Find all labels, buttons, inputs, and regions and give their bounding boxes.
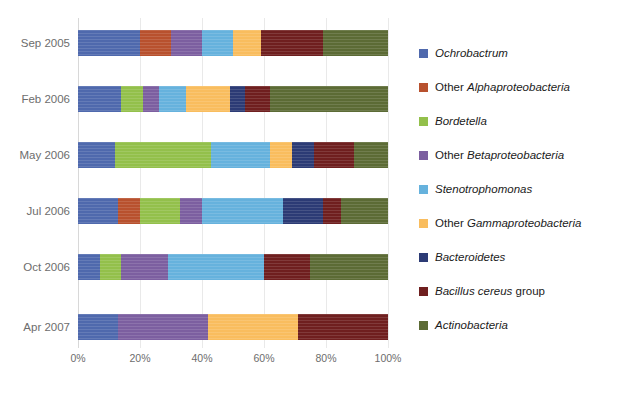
x-axis-tick-label: 100% (375, 352, 402, 364)
bar-segment[interactable] (118, 314, 208, 340)
gridline-60 (264, 18, 265, 348)
bar-segment[interactable] (341, 198, 388, 224)
y-axis-tick-label: Jul 2006 (0, 198, 70, 224)
bar-segment[interactable] (159, 86, 187, 112)
bar-segment[interactable] (292, 142, 314, 168)
bar-segment[interactable] (211, 142, 270, 168)
gridline-0 (78, 18, 79, 348)
bar-segment[interactable] (298, 314, 388, 340)
bar-segment[interactable] (168, 254, 264, 280)
x-axis-labels: 0%20%40%60%80%100% (78, 352, 388, 372)
legend-item[interactable]: Other Betaproteobacteria (419, 138, 614, 172)
bar-segment[interactable] (208, 314, 298, 340)
bar-segment[interactable] (78, 30, 140, 56)
bar-row[interactable] (78, 198, 388, 224)
stacked-bar-chart: Sep 2005Feb 2006May 2006Jul 2006Oct 2006… (0, 0, 618, 395)
bar-segment[interactable] (100, 254, 122, 280)
bar-segment[interactable] (270, 86, 388, 112)
bar-row[interactable] (78, 142, 388, 168)
legend-label: Bacteroidetes (435, 251, 505, 264)
legend-label: Other Alphaproteobacteria (435, 81, 570, 94)
legend-label: Bacillus cereus group (435, 285, 545, 298)
bar-segment[interactable] (78, 86, 121, 112)
legend-item[interactable]: Bacillus cereus group (419, 274, 614, 308)
legend-item[interactable]: Other Gammaproteobacteria (419, 206, 614, 240)
bar-segment[interactable] (78, 314, 118, 340)
bar-row[interactable] (78, 30, 388, 56)
legend-label: Bordetella (435, 115, 487, 128)
bar-segment[interactable] (314, 142, 354, 168)
legend-label: Ochrobactrum (435, 47, 508, 60)
legend-swatch-icon (419, 151, 428, 160)
bar-segment[interactable] (78, 198, 118, 224)
bar-segment[interactable] (78, 142, 115, 168)
bar-segment[interactable] (261, 30, 323, 56)
legend-swatch-icon (419, 49, 428, 58)
legend-swatch-icon (419, 321, 428, 330)
bar-segment[interactable] (115, 142, 211, 168)
x-axis-tick-label: 0% (70, 352, 85, 364)
bar-segment[interactable] (264, 254, 311, 280)
bar-segment[interactable] (121, 86, 143, 112)
y-axis-tick-label: Oct 2006 (0, 254, 70, 280)
bar-segment[interactable] (202, 198, 283, 224)
legend-item[interactable]: Bacteroidetes (419, 240, 614, 274)
bar-segment[interactable] (143, 86, 159, 112)
bar-segment[interactable] (233, 30, 261, 56)
chart-legend: OchrobactrumOther AlphaproteobacteriaBor… (419, 36, 614, 342)
gridline-100 (388, 18, 389, 348)
legend-swatch-icon (419, 219, 428, 228)
legend-label: Stenotrophomonas (435, 183, 532, 196)
bar-segment[interactable] (323, 30, 388, 56)
gridline-40 (202, 18, 203, 348)
legend-swatch-icon (419, 117, 428, 126)
bar-segment[interactable] (180, 198, 202, 224)
legend-swatch-icon (419, 253, 428, 262)
bar-segment[interactable] (78, 254, 100, 280)
legend-label: Actinobacteria (435, 319, 508, 332)
bar-row[interactable] (78, 314, 388, 340)
bar-segment[interactable] (118, 198, 140, 224)
bar-segment[interactable] (186, 86, 229, 112)
legend-swatch-icon (419, 83, 428, 92)
bar-segment[interactable] (270, 142, 292, 168)
legend-swatch-icon (419, 287, 428, 296)
legend-label: Other Gammaproteobacteria (435, 217, 581, 230)
bar-segment[interactable] (354, 142, 388, 168)
gridline-80 (326, 18, 327, 348)
bar-segment[interactable] (310, 254, 388, 280)
bar-segment[interactable] (202, 30, 233, 56)
legend-item[interactable]: Other Alphaproteobacteria (419, 70, 614, 104)
bar-row[interactable] (78, 254, 388, 280)
bar-segment[interactable] (140, 30, 171, 56)
bar-segment[interactable] (245, 86, 270, 112)
y-axis-tick-label: May 2006 (0, 142, 70, 168)
bar-segment[interactable] (323, 198, 342, 224)
x-axis-tick-label: 40% (191, 352, 212, 364)
x-axis-tick-label: 80% (315, 352, 336, 364)
x-axis-tick-label: 20% (129, 352, 150, 364)
legend-label: Other Betaproteobacteria (435, 149, 564, 162)
legend-item[interactable]: Ochrobactrum (419, 36, 614, 70)
plot-area (78, 18, 388, 348)
y-axis-tick-label: Apr 2007 (0, 314, 70, 340)
y-axis-tick-label: Feb 2006 (0, 86, 70, 112)
bar-segment[interactable] (230, 86, 246, 112)
bar-segment[interactable] (283, 198, 323, 224)
bar-segment[interactable] (171, 30, 202, 56)
bar-segment[interactable] (140, 198, 180, 224)
legend-item[interactable]: Actinobacteria (419, 308, 614, 342)
x-axis-tick-label: 60% (253, 352, 274, 364)
legend-swatch-icon (419, 185, 428, 194)
y-axis-tick-label: Sep 2005 (0, 30, 70, 56)
gridline-20 (140, 18, 141, 348)
legend-item[interactable]: Stenotrophomonas (419, 172, 614, 206)
legend-item[interactable]: Bordetella (419, 104, 614, 138)
bar-row[interactable] (78, 86, 388, 112)
bar-segment[interactable] (121, 254, 168, 280)
